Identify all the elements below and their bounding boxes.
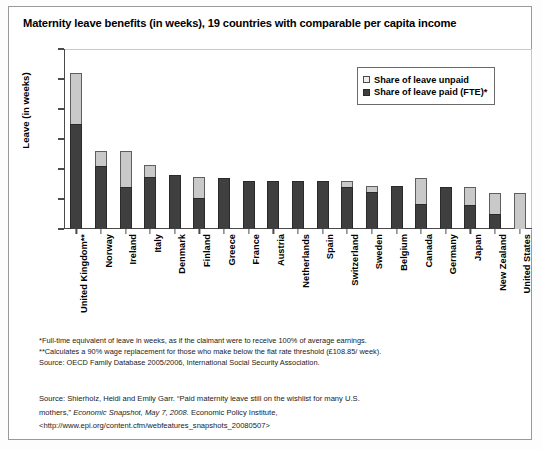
bar-segment-unpaid[interactable] (514, 193, 526, 229)
footnote-line: **Calculates a 90% wage replacement for … (39, 346, 509, 357)
footnote-line: Source: OECD Family Database 2005/2006, … (39, 357, 509, 368)
stacked-bar[interactable] (169, 175, 181, 229)
stacked-bar[interactable] (243, 181, 255, 229)
stacked-bar[interactable] (514, 193, 526, 229)
bar-group[interactable] (163, 49, 188, 229)
stacked-bar[interactable] (464, 187, 476, 229)
bar-group[interactable] (507, 49, 532, 229)
stacked-bar[interactable] (120, 151, 132, 229)
source-url: <http://www.epi.org/content.cfm/webfeatu… (39, 419, 509, 433)
stacked-bar[interactable] (193, 177, 205, 230)
x-label-slot: Spain (310, 234, 335, 312)
x-label-slot: Italy (138, 234, 163, 312)
bar-segment-unpaid[interactable] (144, 165, 156, 177)
chart-page: Maternity leave benefits (in weeks), 19 … (0, 0, 542, 449)
legend-item[interactable]: Share of leave unpaid (363, 75, 487, 85)
bar-segment-paid[interactable] (489, 214, 501, 229)
x-label-slot: New Zealand (483, 234, 508, 312)
stacked-bar[interactable] (440, 187, 452, 229)
x-label-slot: Finland (187, 234, 212, 312)
stacked-bar[interactable] (144, 165, 156, 230)
bar-group[interactable] (335, 49, 360, 229)
legend-label: Share of leave unpaid (374, 75, 469, 85)
stacked-bar[interactable] (218, 178, 230, 229)
x-label-slot: Sweden (360, 234, 385, 312)
bar-segment-unpaid[interactable] (464, 187, 476, 205)
bar-segment-paid[interactable] (243, 181, 255, 229)
bar-group[interactable] (261, 49, 286, 229)
bar-segment-paid[interactable] (317, 181, 329, 229)
bar-group[interactable] (187, 49, 212, 229)
stacked-bar[interactable] (415, 178, 427, 229)
bar-segment-paid[interactable] (144, 177, 156, 230)
bar-group[interactable] (113, 49, 138, 229)
x-label-slot: Germany (433, 234, 458, 312)
bar-group[interactable] (236, 49, 261, 229)
x-label-slot: Norway (89, 234, 114, 312)
bar-segment-paid[interactable] (341, 187, 353, 229)
bar-segment-paid[interactable] (415, 204, 427, 230)
stacked-bar[interactable] (366, 186, 378, 230)
bar-segment-paid[interactable] (267, 181, 279, 229)
bar-segment-unpaid[interactable] (70, 73, 82, 124)
bar-segment-paid[interactable] (391, 186, 403, 230)
bar-segment-paid[interactable] (95, 166, 107, 229)
bar-segment-unpaid[interactable] (95, 151, 107, 166)
bar-segment-paid[interactable] (218, 178, 230, 229)
source-line-2-suffix: Economic Policy Institute, (189, 408, 278, 417)
stacked-bar[interactable] (292, 181, 304, 229)
stacked-bar[interactable] (391, 186, 403, 230)
legend-label: Share of leave paid (FTE)* (374, 87, 487, 97)
bar-segment-paid[interactable] (464, 205, 476, 229)
x-label-slot: Denmark (163, 234, 188, 312)
bar-segment-unpaid[interactable] (415, 178, 427, 204)
x-label-slot: Netherlands (286, 234, 311, 312)
page-title: Maternity leave benefits (in weeks), 19 … (23, 17, 519, 29)
bar-group[interactable] (138, 49, 163, 229)
bar-segment-unpaid[interactable] (489, 193, 501, 214)
chart-legend: Share of leave unpaidShare of leave paid… (357, 67, 495, 105)
stacked-bar[interactable] (267, 181, 279, 229)
bar-group[interactable] (212, 49, 237, 229)
x-label-slot: Ireland (113, 234, 138, 312)
bar-segment-paid[interactable] (193, 198, 205, 230)
y-axis-title: Leave (in weeks) (20, 51, 31, 171)
footnote-line: *Full-time equivalent of leave in weeks,… (39, 335, 509, 346)
bar-group[interactable] (310, 49, 335, 229)
stacked-bar[interactable] (341, 181, 353, 229)
source-line-2-prefix: mothers,” (39, 408, 73, 417)
bar-segment-paid[interactable] (169, 175, 181, 229)
x-label-slot: Japan (458, 234, 483, 312)
legend-item[interactable]: Share of leave paid (FTE)* (363, 87, 487, 97)
legend-swatch-unpaid (363, 76, 370, 83)
bar-segment-paid[interactable] (440, 187, 452, 229)
x-axis-labels: United Kingdom**NorwayIrelandItalyDenmar… (64, 234, 532, 312)
bar-group[interactable] (89, 49, 114, 229)
bar-segment-paid[interactable] (292, 181, 304, 229)
x-label-slot: Switzerland (335, 234, 360, 312)
bar-segment-paid[interactable] (120, 187, 132, 229)
source-line-1: Source: Shierholz, Heidi and Emily Garr.… (39, 392, 509, 406)
x-label-slot: Greece (212, 234, 237, 312)
x-axis-label: United States (523, 234, 532, 293)
bar-segment-paid[interactable] (366, 192, 378, 230)
stacked-bar[interactable] (489, 193, 501, 229)
chart-frame: Maternity leave benefits (in weeks), 19 … (8, 6, 532, 440)
bar-segment-paid[interactable] (70, 124, 82, 229)
x-label-slot: United Kingdom** (64, 234, 89, 312)
x-label-slot: Canada (409, 234, 434, 312)
bar-group[interactable] (286, 49, 311, 229)
bar-group[interactable] (64, 49, 89, 229)
bar-segment-unpaid[interactable] (193, 177, 205, 198)
source-line-2: mothers,” Economic Snapshot, May 7, 2008… (39, 406, 509, 420)
footnotes: *Full-time equivalent of leave in weeks,… (39, 335, 509, 368)
x-label-slot: Austria (261, 234, 286, 312)
stacked-bar[interactable] (70, 73, 82, 229)
stacked-bar[interactable] (317, 181, 329, 229)
x-label-slot: France (236, 234, 261, 312)
bar-segment-unpaid[interactable] (120, 151, 132, 187)
stacked-bar[interactable] (95, 151, 107, 229)
source-citation: Source: Shierholz, Heidi and Emily Garr.… (39, 392, 509, 433)
x-label-slot: United States (507, 234, 532, 312)
x-label-slot: Belgium (384, 234, 409, 312)
